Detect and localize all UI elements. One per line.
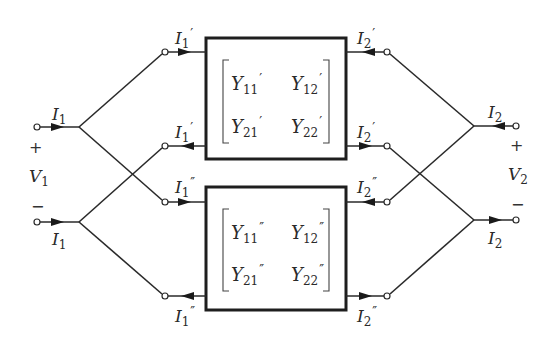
matrix-a-y12: Y12′	[291, 72, 322, 96]
a-left-top-terminal	[162, 49, 168, 55]
wire-a-ret-to-p2bot	[390, 148, 474, 220]
port2-plus-sign: +	[510, 138, 523, 154]
b-left-bottom-terminal	[162, 293, 168, 299]
b-right-bottom-terminal	[384, 293, 390, 299]
a-right-bottom-current-label: I2′	[357, 121, 375, 144]
wire-b-out-to-p2top	[390, 126, 474, 200]
arrow-right-icon	[489, 216, 502, 224]
wire-b-ret-to-p2bot	[390, 220, 474, 294]
b-right-bottom-current-label: I2″	[357, 305, 377, 328]
b-left-bottom-current-label: I1″	[175, 305, 195, 328]
matrix-b-y12: Y12″	[291, 221, 324, 245]
port1-top-current-label: I1	[52, 106, 66, 126]
matrix-a-y11: Y11′	[231, 72, 262, 96]
port2-bottom-current-label: I2	[488, 230, 502, 250]
network-a-box	[206, 38, 346, 159]
port1-voltage-label: V1	[29, 168, 49, 188]
port1-plus-terminal	[34, 124, 40, 130]
b-left-top-current-label: I1″	[175, 176, 195, 199]
arrow-right-icon	[51, 218, 64, 226]
arrow-right-icon	[359, 292, 372, 300]
port1-minus-terminal	[34, 219, 40, 225]
b-right-top-current-label: I2″	[357, 176, 377, 199]
matrix-b-y21: Y21″	[231, 263, 264, 287]
a-left-bottom-current-label: I1′	[175, 121, 193, 144]
matrix-b-y11: Y11″	[231, 221, 264, 245]
wire-p1top-to-a-in	[79, 54, 162, 127]
a-right-top-terminal	[384, 49, 390, 55]
b-left-top-terminal	[162, 199, 168, 205]
port1-plus-sign: +	[29, 140, 42, 156]
a-left-bottom-terminal	[162, 143, 168, 149]
matrix-a-y21: Y21′	[231, 115, 262, 139]
port1-bottom-current-label: I1	[52, 231, 66, 251]
wire-p1bot-to-b-ret	[79, 222, 162, 294]
wire-p1bot-to-a-ret	[79, 148, 162, 222]
matrix-b-y22: Y22″	[291, 263, 324, 287]
wire-a-out-to-p2top	[390, 54, 474, 126]
arrow-left-icon	[181, 292, 194, 300]
port2-top-current-label: I2	[488, 104, 502, 124]
port2-minus-terminal	[513, 217, 519, 223]
a-right-top-current-label: I2′	[357, 27, 375, 50]
port2-voltage-label: V2	[508, 166, 528, 186]
two-port-parallel-diagram: I1 + V1 − I1 I2 + V2 − I2 I1′ I1′ I2′ I2…	[0, 0, 553, 341]
port1-minus-sign: −	[31, 199, 44, 215]
b-right-top-terminal	[384, 199, 390, 205]
port2-minus-sign: −	[511, 197, 524, 213]
circuit-wiring	[0, 0, 553, 341]
a-right-bottom-terminal	[384, 143, 390, 149]
port2-plus-terminal	[513, 123, 519, 129]
wire-p1top-to-b-in	[79, 127, 162, 200]
matrix-a-y22: Y22′	[291, 115, 322, 139]
a-left-top-current-label: I1′	[175, 27, 193, 50]
